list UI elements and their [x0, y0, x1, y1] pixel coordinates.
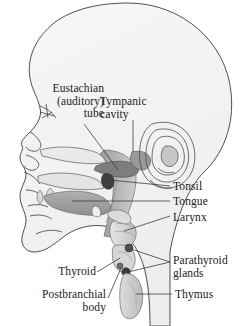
- label-tonsil: Tonsil: [173, 180, 202, 193]
- leader-postbranchial: [108, 268, 121, 298]
- label-parathyroid-glands: Parathyroid glands: [173, 254, 239, 279]
- label-thyroid: Thyroid: [44, 265, 96, 278]
- label-eustachian-tube: Eustachian (auditory) tube: [42, 82, 104, 120]
- thymus-lobe: [120, 274, 143, 319]
- postbranchial-body-marker: [117, 263, 123, 269]
- label-tympanic-cavity: Tympanic cavity: [100, 95, 160, 120]
- label-larynx: Larynx: [173, 211, 207, 224]
- label-thymus: Thymus: [175, 288, 213, 301]
- label-postbranchial-body: Postbranchial body: [26, 288, 106, 313]
- parathyroid-gland-upper: [125, 244, 133, 252]
- label-tongue: Tongue: [173, 195, 208, 208]
- anatomy-figure: Eustachian (auditory) tube Tympanic cavi…: [0, 0, 243, 326]
